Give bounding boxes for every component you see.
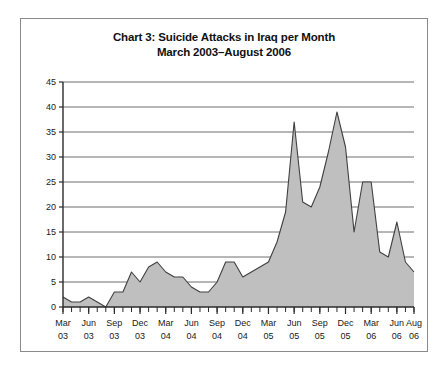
xtick-label-year-Dec-04: 04 [238,331,248,341]
xtick-label-month-Mar-03: Mar [55,318,71,328]
xtick-label-month-Aug-06: Aug [406,318,422,328]
xtick-label-month-Sep-04: Sep [209,318,225,328]
xtick-label-month-Mar-05: Mar [261,318,277,328]
xtick-label-year-Jun-06: 06 [392,331,402,341]
xtick-label-month-Dec-03: Dec [132,318,149,328]
xtick-label-year-Aug-06: 06 [409,331,419,341]
xtick-label-year-Dec-03: 03 [135,331,145,341]
xtick-label-month-Sep-03: Sep [106,318,122,328]
xtick-label-month-Jun-06: Jun [390,318,405,328]
xtick-label-month-Dec-05: Dec [338,318,355,328]
ytick-label-45: 45 [46,77,56,87]
ytick-label-20: 20 [46,202,56,212]
xtick-label-year-Dec-05: 05 [341,331,351,341]
xtick-label-month-Mar-04: Mar [158,318,174,328]
xtick-label-year-Jun-03: 03 [84,331,94,341]
ytick-label-0: 0 [51,302,56,312]
xtick-label-month-Jun-04: Jun [184,318,199,328]
xtick-label-year-Sep-05: 05 [315,331,325,341]
ytick-label-5: 5 [51,277,56,287]
xtick-label-month-Sep-05: Sep [312,318,328,328]
xtick-label-month-Jun-03: Jun [81,318,96,328]
chart-plot: 051015202530354045Mar03Jun03Sep03Dec03Ma… [21,19,427,351]
ytick-label-30: 30 [46,152,56,162]
chart-figure: Chart 3: Suicide Attacks in Iraq per Mon… [20,18,428,352]
ytick-label-25: 25 [46,177,56,187]
xtick-label-year-Mar-04: 04 [161,331,171,341]
ytick-label-40: 40 [46,102,56,112]
xtick-label-year-Jun-04: 04 [186,331,196,341]
xtick-label-year-Mar-03: 03 [58,331,68,341]
xtick-label-month-Mar-06: Mar [363,318,379,328]
ytick-label-15: 15 [46,227,56,237]
xtick-label-year-Sep-03: 03 [109,331,119,341]
xtick-label-month-Dec-04: Dec [235,318,252,328]
xtick-label-year-Mar-06: 06 [366,331,376,341]
xtick-label-year-Jun-05: 05 [289,331,299,341]
xtick-label-month-Jun-05: Jun [287,318,302,328]
ytick-label-35: 35 [46,127,56,137]
xtick-label-year-Sep-04: 04 [212,331,222,341]
xtick-label-year-Mar-05: 05 [263,331,273,341]
area-series-fill [63,112,414,307]
ytick-label-10: 10 [46,252,56,262]
